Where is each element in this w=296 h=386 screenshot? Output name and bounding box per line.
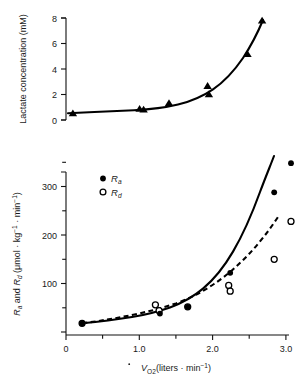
ra-point	[271, 189, 277, 195]
rd-data-points	[79, 218, 294, 326]
ra-point	[288, 160, 294, 166]
rate-xticklabel-0: 0	[63, 344, 68, 354]
lactate-point	[203, 82, 211, 89]
rate-xticklabel-2: 2.0	[206, 344, 219, 354]
ra-point	[79, 320, 85, 326]
chart-svg: 8 6 4 2 0 Lactate concentration (mM)	[0, 0, 296, 386]
xlabel-close: )	[208, 363, 211, 373]
rate-yticklabel-100: 100	[42, 279, 57, 289]
legend-marker-ra	[100, 176, 106, 182]
rate-xticklabel-1: 1.0	[133, 344, 146, 354]
rate-xticklabel-3: 3.0	[280, 344, 293, 354]
vdot-accent	[128, 363, 130, 365]
rd-point	[288, 218, 294, 224]
rate-yticklabel-200: 200	[42, 231, 57, 241]
lactate-fit-curve	[68, 20, 263, 113]
rate-yticklabel-300: 300	[42, 182, 57, 192]
rate-ylabel-mid: · min	[12, 203, 22, 226]
lactate-ticklabel-8: 8	[52, 14, 57, 24]
legend-label-ra: Ra	[111, 173, 122, 185]
rd-point	[227, 288, 233, 294]
lactate-point	[165, 99, 173, 106]
lactate-ticklabel-0: 0	[52, 116, 57, 126]
legend: Ra Rd	[100, 173, 122, 199]
lactate-ticklabel-2: 2	[52, 90, 57, 100]
lactate-point	[258, 17, 266, 24]
rd-point	[226, 282, 232, 288]
rate-ylabel-and: and	[12, 286, 22, 306]
rate-x-axis-title: VO2(liters · min−1)	[141, 362, 211, 375]
ra-point	[185, 304, 191, 310]
legend-marker-rd	[100, 189, 106, 195]
lactate-ticklabel-4: 4	[52, 65, 57, 75]
rate-y-axis	[61, 172, 66, 335]
legend-label-rd: Rd	[111, 187, 122, 199]
lactate-y-axis-title: Lactate concentration (mM)	[18, 14, 28, 124]
lactate-ticklabel-6: 6	[52, 39, 57, 49]
rate-ylabel-units: (μmol · kg	[12, 233, 22, 276]
rd-fit-curve	[82, 217, 278, 323]
lactate-panel: 8 6 4 2 0 Lactate concentration (mM)	[18, 14, 266, 126]
rd-point	[152, 302, 158, 308]
ra-point	[157, 311, 163, 317]
legend-ra-sub: a	[118, 178, 122, 185]
lactate-point	[243, 50, 251, 57]
rate-y-axis-title: Ra and Rd (μmol · kg−1 · min−1)	[11, 192, 23, 316]
legend-rd-sub: d	[118, 192, 122, 199]
rate-panel: 300 200 100 0 1.0 2.0 3.0 Ra and Rd (μmo…	[11, 156, 294, 375]
figure-container: 8 6 4 2 0 Lactate concentration (mM)	[0, 0, 296, 386]
rd-point	[271, 256, 277, 262]
ra-point	[227, 270, 233, 276]
rate-ylabel-close: )	[12, 192, 22, 195]
xlabel-rest: (liters · min	[156, 363, 201, 373]
